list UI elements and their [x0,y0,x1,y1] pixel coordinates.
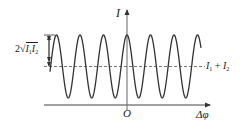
mean-plus: + [215,60,221,71]
mean-level-label: I1 + I2 [206,61,229,72]
y-axis-label: I [116,7,120,19]
amplitude-label: 2√I1I2 [15,44,38,55]
mean-I2-sub: 2 [226,66,229,72]
x-axis-label: Δφ [196,109,209,120]
origin-label: O [123,108,131,119]
mean-I1-sub: 1 [209,66,212,72]
x-axis-label-text: Δφ [196,108,209,120]
amplitude-I2-sub: 2 [35,49,38,55]
